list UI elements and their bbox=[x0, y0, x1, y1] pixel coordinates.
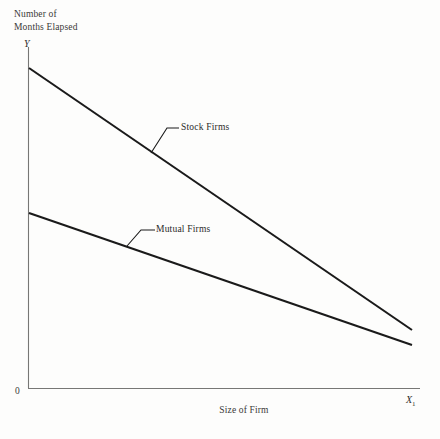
leader-line-stock-firms bbox=[151, 128, 179, 153]
origin-label: 0 bbox=[15, 386, 20, 396]
series-line-mutual-firms bbox=[29, 213, 412, 345]
leader-line-mutual-firms bbox=[127, 230, 155, 246]
series-annotation-mutual-firms: Mutual Firms bbox=[156, 224, 210, 234]
x-axis-symbol-subscript: 1 bbox=[412, 400, 416, 408]
chart-figure: Number of Months Elapsed Y X1 0 Size of … bbox=[0, 0, 440, 439]
series-annotation-stock-firms: Stock Firms bbox=[181, 122, 229, 132]
y-axis-symbol: Y bbox=[24, 38, 30, 49]
x-axis-symbol: X1 bbox=[406, 394, 416, 408]
x-axis-title: Size of Firm bbox=[184, 404, 304, 417]
chart-plot-area bbox=[0, 0, 440, 439]
y-axis-title: Number of Months Elapsed bbox=[14, 8, 78, 33]
series-line-stock-firms bbox=[29, 68, 412, 330]
